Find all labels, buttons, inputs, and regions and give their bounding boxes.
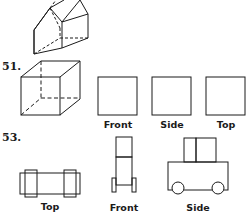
vehicle-side-view (168, 138, 228, 194)
view-label-side-53: Side (176, 202, 220, 213)
vehicle-front-view (112, 137, 136, 192)
cube-figure (21, 61, 80, 115)
view-label-top-51: Top (204, 119, 248, 130)
problem-number-53: 53. (2, 131, 21, 144)
diagram-canvas (0, 0, 251, 214)
vehicle-top-view (20, 170, 80, 197)
problem-number-51: 51. (2, 60, 21, 73)
view-label-front-53: Front (102, 202, 146, 213)
house-prism-figure (34, 0, 88, 54)
view-boxes-51 (98, 77, 245, 115)
view-label-top-53: Top (28, 201, 72, 212)
view-label-side-51: Side (150, 119, 194, 130)
view-label-front-51: Front (96, 119, 140, 130)
